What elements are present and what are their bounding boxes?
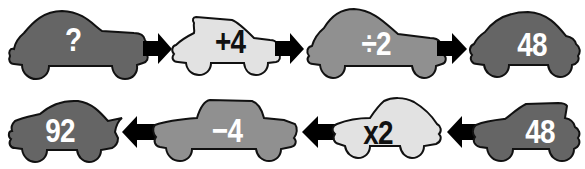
- car-puzzle-diagram: ? +4 ÷2 48 92 −4 x2 48: [0, 0, 585, 169]
- car-label-row1-1: ?: [53, 22, 94, 56]
- car-label-row1-3: ÷2: [351, 26, 400, 60]
- car-label-row1-2: +4: [205, 24, 254, 58]
- arrow-left-2: [302, 116, 337, 148]
- car-label-row2-4: 48: [515, 114, 564, 148]
- arrow-left-1: [122, 116, 156, 148]
- car-label-row1-4: 48: [507, 27, 556, 61]
- car-label-row2-3: x2: [353, 115, 402, 149]
- car-label-row2-1: 92: [35, 113, 84, 147]
- car-label-row2-2: −4: [198, 113, 255, 147]
